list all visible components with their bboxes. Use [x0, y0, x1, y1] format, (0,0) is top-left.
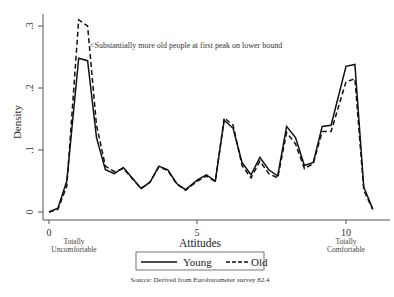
x-axis-label: Attitudes — [179, 237, 222, 249]
legend-old-text: Old — [251, 256, 268, 268]
chart-annotation: <Substantially more old people at first … — [90, 41, 282, 50]
x-sublabel-0-line2: Uncomfortable — [51, 245, 97, 254]
svg-text:0: 0 — [24, 210, 35, 215]
density-chart: 0 .1 .2 .3 Density 0 5 10 Totally Uncomf… — [0, 0, 394, 297]
legend: Young Old — [136, 252, 264, 270]
y-ticks: 0 .1 .2 .3 — [24, 22, 43, 214]
x-sublabel-10-line2: Comfortable — [327, 245, 366, 254]
svg-text:0: 0 — [47, 227, 52, 238]
svg-text:.2: .2 — [24, 84, 35, 92]
svg-text:.3: .3 — [24, 22, 35, 30]
source-note: Source: Derived from Eurobarometer surve… — [130, 276, 270, 284]
svg-text:.1: .1 — [24, 146, 35, 154]
series-young-line — [49, 58, 373, 212]
legend-young-label: Young — [183, 256, 212, 268]
y-axis-label: Density — [11, 104, 23, 139]
